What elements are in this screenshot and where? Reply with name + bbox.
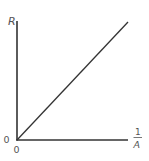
origin-label-left: 0 (4, 134, 10, 145)
y-axis-label: R (8, 15, 16, 28)
origin-label-below: 0 (14, 144, 20, 155)
x-axis-label-numerator: 1 (135, 127, 141, 137)
proportional-line (17, 22, 128, 140)
graph-canvas: R 0 0 1 A (0, 0, 149, 161)
x-axis-label-denominator: A (133, 139, 141, 150)
